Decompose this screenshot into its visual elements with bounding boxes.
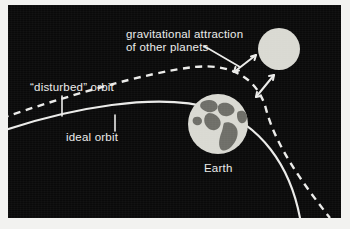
ideal-orbit-label: ideal orbit	[66, 131, 118, 144]
gravity-arrow-lower	[256, 75, 274, 97]
gravity-arrow-upper	[234, 55, 256, 72]
gravitational-label-line2: of other planets	[126, 41, 208, 53]
gravitational-attraction-label: gravitational attractionof other planets	[126, 28, 243, 54]
earth-body	[188, 94, 248, 154]
disturbed-orbit-label: “disturbed” orbit	[30, 81, 114, 94]
diagram-panel: gravitational attractionof other planets…	[8, 5, 341, 218]
gravitational-label-line1: gravitational attraction	[126, 28, 243, 40]
ideal-orbit-path	[8, 102, 300, 218]
other-planet-sphere	[258, 28, 300, 70]
earth-label: Earth	[204, 162, 233, 175]
figure-root: gravitational attractionof other planets…	[0, 0, 350, 229]
